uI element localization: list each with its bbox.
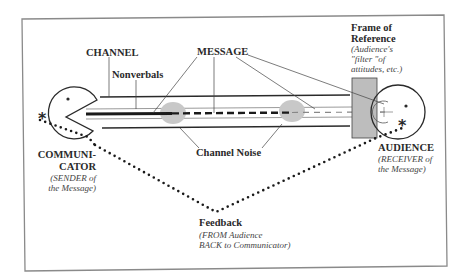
channel-bottom-line	[102, 126, 350, 128]
communicator-eye	[66, 97, 69, 100]
message-dashed-heavy	[172, 113, 290, 114]
communicator-sub-1: (SENDER of	[36, 173, 96, 183]
message-label: MESSAGE	[197, 46, 248, 57]
communication-diagram: * * CHANNEL Nonverbals MESSAGE Frame of …	[0, 0, 462, 279]
noise-pointer-1	[180, 128, 199, 148]
feedback-label: Feedback	[199, 217, 242, 228]
feedback-sub-2: BACK to Communicator)	[199, 240, 291, 250]
frame-of-reference-sub-1: (Audience's	[351, 44, 393, 54]
frame-of-reference-title-1: Frame of	[351, 22, 392, 33]
nonverbal-line-bottom	[86, 117, 352, 119]
feedback-path-communicator	[40, 120, 95, 145]
feedback-sub-1: (FROM Audience	[199, 230, 263, 240]
channel-top-line	[100, 95, 350, 97]
message-solid	[86, 113, 172, 114]
channel-noise-label: Channel Noise	[196, 147, 261, 158]
communicator-asterisk: *	[38, 109, 47, 128]
audience-eye	[404, 104, 407, 107]
audience-sub-1: (RECEIVER of	[378, 154, 432, 164]
feedback-path	[95, 127, 405, 212]
frame-of-reference-sub-2: "filter "of	[351, 54, 385, 64]
communicator-label-1: COMMUNI-	[36, 149, 96, 160]
audience-sub-2: the Message)	[378, 164, 426, 174]
communicator-label-2: CATOR	[36, 161, 96, 172]
noise-pointer-2	[262, 124, 282, 148]
audience-label: AUDIENCE	[378, 142, 434, 153]
channel-label: CHANNEL	[86, 47, 139, 58]
audience-asterisk: *	[398, 116, 407, 135]
communicator-sub-2: the Message)	[36, 183, 96, 193]
nonverbals-label: Nonverbals	[112, 69, 163, 80]
frame-of-reference-title-2: Reference	[351, 33, 396, 44]
frame-of-reference-sub-3: attitudes, etc.)	[351, 64, 402, 74]
channel-noise-blob-2	[279, 100, 305, 122]
